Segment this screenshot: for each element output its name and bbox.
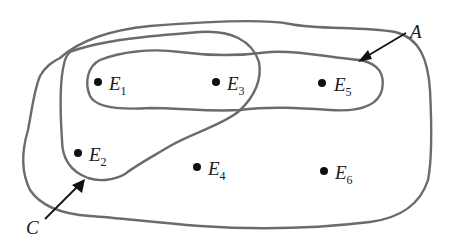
point-e2-dot: [74, 149, 82, 157]
set-c-label: C: [26, 218, 39, 237]
arrow-a-icon: [358, 33, 406, 62]
diagram-outlines: [0, 0, 456, 246]
point-e4-label: E4: [208, 159, 226, 182]
universe-outline: [23, 21, 431, 228]
set-a-label: A: [410, 22, 422, 41]
point-e1-dot: [94, 78, 102, 86]
point-e4-dot: [193, 163, 201, 171]
point-e6-label: E6: [335, 163, 353, 186]
point-e2-label: E2: [89, 145, 107, 168]
point-e5-dot: [318, 79, 326, 87]
point-e1-label: E1: [109, 74, 127, 97]
point-e6-dot: [320, 167, 328, 175]
point-e3-label: E3: [227, 74, 245, 97]
set-diagram: E1 E3 E5 E2 E4 E6 A C: [0, 0, 456, 246]
point-e5-label: E5: [334, 75, 352, 98]
point-e3-dot: [212, 78, 220, 86]
